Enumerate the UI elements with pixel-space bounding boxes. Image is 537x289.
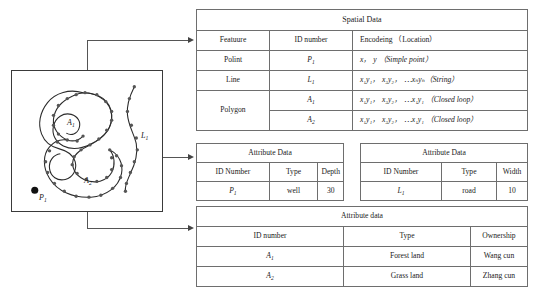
table-header-row: ID number Type Ownership: [197, 227, 528, 247]
header-id-number: ID Number: [197, 163, 270, 182]
table-row: Polygon A1 x₁y₁， x₂y₂， ⋯x₁y₁ （Closed loo…: [197, 91, 528, 111]
table-header-row: ID Number Type Width: [361, 163, 528, 182]
cell-id-l1: L1: [270, 71, 353, 91]
cell-encoding-polygon-a1: x₁y₁， x₂y₂， ⋯x₁y₁ （Closed loop）: [353, 91, 528, 111]
map-label-area-2: A2: [84, 176, 92, 185]
table-row: P1 well 30: [197, 182, 344, 201]
cell-id-p1: P1: [197, 182, 270, 201]
header-type: Type: [269, 163, 318, 182]
header-type: Type: [344, 227, 471, 247]
line-feature-vertices: [124, 85, 139, 193]
table-header-row: ID Number Type Depth: [197, 163, 344, 182]
spatial-table-title: Spatial Data: [197, 10, 528, 31]
header-id-number: ID number: [197, 227, 344, 247]
cell-id-a1: A1: [197, 247, 344, 267]
cell-type-grass-land: Grass land: [344, 267, 471, 287]
table-row: Polint P1 x， y （Simple point）: [197, 51, 528, 71]
connector-bottom-horizontal: [87, 228, 189, 229]
header-encoding: Encodeing （Location）: [353, 31, 528, 51]
cell-encoding-polygon-a2: x₁y₁， x₂y₂， ⋯x₁y₁ （Closed loop）: [353, 111, 528, 131]
cell-owner-zhang-cun: Zhang cun: [471, 267, 528, 287]
cell-id-a2: A2: [197, 267, 344, 287]
connector-top-vertical: [87, 40, 88, 71]
attr-right-title: Attribute Data: [361, 144, 528, 163]
arrow-to-attr-bottom-table: [188, 225, 194, 231]
map-label-line: L1: [141, 131, 148, 140]
cell-feature-point: Polint: [197, 51, 270, 71]
polygon-inner-notch: [67, 136, 83, 141]
map-label-point: P1: [39, 193, 47, 202]
header-depth: Depth: [318, 163, 344, 182]
arrow-to-spatial-table: [188, 37, 194, 43]
arrow-to-attr-left-table: [188, 154, 194, 160]
cell-owner-wang-cun: Wang cun: [471, 247, 528, 267]
cell-feature-line: Line: [197, 71, 270, 91]
cell-type-road: road: [442, 182, 497, 201]
table-row: Line L1 x₁y₁， x₂y₂， ⋯xₙyₙ（String）: [197, 71, 528, 91]
diagram-canvas: A1 A2 L1 P1 Spatial Data Featuure ID num…: [0, 0, 537, 289]
attribute-data-point-table: Attribute Data ID Number Type Depth P1 w…: [196, 143, 344, 201]
cell-id-a1: A1: [270, 91, 353, 111]
cell-depth-value: 30: [318, 182, 344, 201]
table-title-row: Attribute Data: [197, 144, 344, 163]
cell-type-forest-land: Forest land: [344, 247, 471, 267]
table-header-row: Featuure ID number Encodeing （Location）: [197, 31, 528, 51]
table-title-row: Attribute Data: [361, 144, 528, 163]
cell-encoding-point: x， y （Simple point）: [353, 51, 528, 71]
table-title-row: Attribute data: [197, 207, 528, 227]
table-row: A1 Forest land Wang cun: [197, 247, 528, 267]
polygon-boundary-path: [40, 91, 112, 180]
attribute-data-polygon-table: Attribute data ID number Type Ownership …: [196, 206, 528, 287]
header-feature: Featuure: [197, 31, 270, 51]
map-graphic: [12, 71, 162, 211]
cell-width-value: 10: [497, 182, 528, 201]
connector-top-horizontal: [87, 40, 189, 41]
table-row: A2 Grass land Zhang cun: [197, 267, 528, 287]
attribute-data-line-table: Attribute Data ID Number Type Width L1 r…: [360, 143, 528, 201]
cell-encoding-line: x₁y₁， x₂y₂， ⋯xₙyₙ（String）: [353, 71, 528, 91]
map-panel[interactable]: A1 A2 L1 P1: [11, 70, 163, 212]
header-id-number: ID Number: [361, 163, 442, 182]
attr-bottom-title: Attribute data: [197, 207, 528, 227]
attr-left-title: Attribute Data: [197, 144, 344, 163]
cell-id-a2: A2: [270, 111, 353, 131]
table-title-row: Spatial Data: [197, 10, 528, 31]
cell-id-l1: L1: [361, 182, 442, 201]
point-feature-dot: [31, 187, 38, 194]
header-id-number: ID number: [270, 31, 353, 51]
table-row: L1 road 10: [361, 182, 528, 201]
cell-type-well: well: [269, 182, 318, 201]
map-label-area-1: A1: [67, 118, 75, 127]
connector-right-horizontal: [163, 157, 189, 158]
header-width: Width: [497, 163, 528, 182]
connector-bottom-vertical: [87, 212, 88, 229]
header-ownership: Ownership: [471, 227, 528, 247]
spatial-data-table: Spatial Data Featuure ID number Encodein…: [196, 9, 528, 131]
cell-feature-polygon: Polygon: [197, 91, 270, 131]
header-type: Type: [442, 163, 497, 182]
cell-id-p1: P1: [270, 51, 353, 71]
